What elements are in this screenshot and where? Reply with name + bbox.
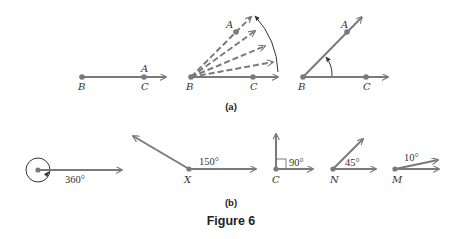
ray-oblique xyxy=(133,136,189,169)
point-a xyxy=(344,29,350,35)
point-b xyxy=(188,74,194,80)
label-a: A xyxy=(140,63,148,74)
panel-a2: B C A xyxy=(185,16,278,92)
caption-b: (b) xyxy=(225,197,237,208)
label-a: A xyxy=(340,19,348,30)
angle-arc xyxy=(326,57,332,76)
measure-label: 10° xyxy=(404,152,419,163)
caption-a: (a) xyxy=(225,101,237,112)
point-b xyxy=(79,74,85,80)
label-b: B xyxy=(77,81,85,92)
vertex-point xyxy=(186,166,191,171)
vertex-label: C xyxy=(272,174,280,185)
point-c xyxy=(363,74,369,80)
point-b xyxy=(300,74,306,80)
label-c: C xyxy=(141,81,149,92)
point-c xyxy=(250,74,256,80)
label-b: B xyxy=(297,81,305,92)
angle-45: 45° N xyxy=(329,139,376,185)
angle-150: 150° X xyxy=(133,136,256,185)
angle-90: 90° C xyxy=(272,134,313,185)
label-c: C xyxy=(250,81,258,92)
label-a: A xyxy=(225,19,233,30)
point-a xyxy=(233,29,239,35)
measure-label: 45° xyxy=(345,157,360,168)
label-c: C xyxy=(363,81,371,92)
measure-label: 360° xyxy=(65,174,85,185)
vertex-label: X xyxy=(183,174,192,185)
vertex-point xyxy=(330,166,335,171)
panel-a3: B C A xyxy=(297,17,388,92)
angle-10: 10° M xyxy=(391,152,439,185)
vertex-point xyxy=(273,166,278,171)
dashed-ray-4 xyxy=(191,17,251,77)
vertex-point xyxy=(392,166,397,171)
measure-label: 150° xyxy=(199,156,219,167)
point-c xyxy=(141,74,147,80)
ray-ba xyxy=(303,17,362,77)
figure-6-diagram: B C A B C A B C A (a) 360° xyxy=(0,0,462,239)
vertex-label: M xyxy=(391,174,403,185)
dashed-ray-1 xyxy=(191,62,273,77)
figure-title: Figure 6 xyxy=(207,214,256,228)
vertex-point xyxy=(35,167,40,172)
label-b: B xyxy=(185,81,193,92)
measure-label: 90° xyxy=(289,157,304,168)
vertex-label: N xyxy=(329,174,340,185)
angle-360: 360° xyxy=(26,158,122,185)
panel-a1: B C A xyxy=(77,63,166,92)
